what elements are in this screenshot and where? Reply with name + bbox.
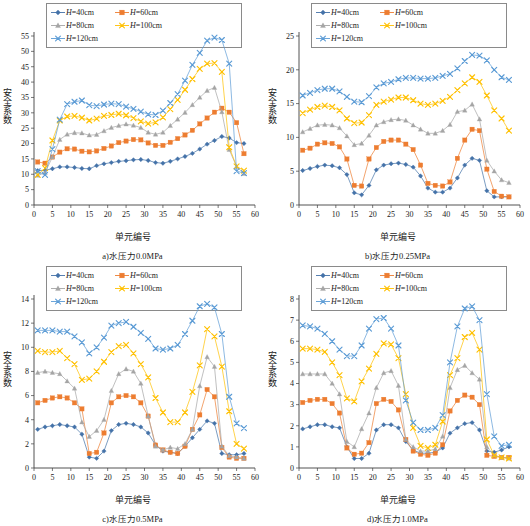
svg-text:45: 45: [21, 63, 29, 72]
svg-text:30: 30: [21, 109, 29, 118]
svg-text:60: 60: [251, 210, 259, 219]
x-ticks-c: 051015202530354045505560: [32, 468, 259, 482]
svg-text:60: 60: [251, 473, 259, 482]
svg-text:25: 25: [286, 32, 294, 41]
svg-text:55: 55: [498, 210, 506, 219]
svg-text:0: 0: [290, 464, 294, 473]
chart-panel-c: H=40cmH=60cmH=80cmH=100cmH=120cm 0246810…: [0, 263, 265, 526]
svg-text:10: 10: [21, 170, 29, 179]
svg-text:30: 30: [141, 210, 149, 219]
series-h80cm: [35, 85, 246, 177]
svg-text:35: 35: [424, 473, 432, 482]
plot-area-b: 0510152025051015202530354045505560: [265, 0, 530, 263]
svg-text:8: 8: [25, 367, 29, 376]
svg-text:5: 5: [315, 210, 319, 219]
svg-text:4: 4: [25, 416, 29, 425]
svg-text:10: 10: [21, 343, 29, 352]
svg-text:45: 45: [461, 210, 469, 219]
svg-text:0: 0: [290, 201, 294, 210]
x-ticks-a: 051015202530354045505560: [32, 205, 259, 219]
series-h100cm: [35, 327, 246, 452]
chart-panel-a: H=40cmH=60cmH=80cmH=100cmH=120cm 0510152…: [0, 0, 265, 263]
svg-text:20: 20: [369, 473, 377, 482]
y-ticks-d: 012345678: [290, 295, 299, 473]
plot-area-c: 02468101214051015202530354045505560: [0, 263, 265, 526]
svg-text:0: 0: [297, 210, 301, 219]
svg-text:12: 12: [21, 319, 29, 328]
svg-text:40: 40: [177, 473, 185, 482]
series-h120cm: [35, 35, 246, 177]
svg-text:5: 5: [50, 210, 54, 219]
chart-svg-b: 0510152025051015202530354045505560: [265, 0, 530, 263]
panel-caption-a: a)水压力0.0MPa: [0, 249, 265, 261]
svg-text:55: 55: [233, 210, 241, 219]
svg-text:55: 55: [498, 473, 506, 482]
series-h80cm: [35, 355, 246, 461]
axes-a: [34, 32, 255, 205]
x-axis-label-c: 单元编号: [0, 493, 265, 506]
svg-text:30: 30: [406, 210, 414, 219]
svg-text:4: 4: [290, 379, 294, 388]
x-axis-label-b: 单元编号: [265, 230, 530, 243]
svg-text:0: 0: [297, 473, 301, 482]
svg-text:0: 0: [25, 201, 29, 210]
svg-text:25: 25: [387, 473, 395, 482]
svg-text:40: 40: [177, 210, 185, 219]
svg-text:40: 40: [21, 78, 29, 87]
svg-text:15: 15: [350, 210, 358, 219]
x-ticks-d: 051015202530354045505560: [297, 468, 524, 482]
y-axis-label-b: 安全系数: [267, 88, 279, 124]
svg-text:30: 30: [406, 473, 414, 482]
svg-text:35: 35: [21, 93, 29, 102]
chart-panel-d: H=40cmH=60cmH=80cmH=100cmH=120cm 0123456…: [265, 263, 530, 526]
svg-text:50: 50: [214, 473, 222, 482]
svg-text:40: 40: [442, 210, 450, 219]
chart-svg-c: 02468101214051015202530354045505560: [0, 263, 265, 526]
figure-root: H=40cmH=60cmH=80cmH=100cmH=120cm 0510152…: [0, 0, 530, 526]
panel-caption-d: d)水压力1.0MPa: [265, 512, 530, 524]
axes-b: [299, 32, 520, 205]
svg-text:3: 3: [290, 400, 294, 409]
svg-text:10: 10: [332, 210, 340, 219]
svg-text:25: 25: [387, 210, 395, 219]
svg-text:0: 0: [25, 464, 29, 473]
svg-text:5: 5: [290, 167, 294, 176]
y-ticks-c: 02468101214: [21, 295, 34, 473]
svg-text:15: 15: [85, 473, 93, 482]
svg-text:15: 15: [350, 473, 358, 482]
svg-text:5: 5: [315, 473, 319, 482]
svg-text:0: 0: [32, 210, 36, 219]
svg-text:20: 20: [21, 139, 29, 148]
x-axis-label-d: 单元编号: [265, 493, 530, 506]
chart-panel-b: H=40cmH=60cmH=80cmH=100cmH=120cm 0510152…: [265, 0, 530, 263]
svg-text:60: 60: [516, 473, 524, 482]
y-ticks-b: 0510152025: [286, 32, 299, 210]
y-ticks-a: 0510152025303540455055: [21, 32, 34, 210]
svg-text:15: 15: [286, 99, 294, 108]
svg-text:7: 7: [290, 316, 294, 325]
svg-text:2: 2: [290, 422, 294, 431]
svg-text:6: 6: [25, 391, 29, 400]
svg-text:40: 40: [442, 473, 450, 482]
svg-text:10: 10: [286, 133, 294, 142]
svg-text:20: 20: [104, 210, 112, 219]
panel-caption-b: b)水压力0.25MPa: [265, 249, 530, 261]
y-axis-label-d: 安全系数: [267, 351, 279, 387]
chart-svg-a: 0510152025303540455055051015202530354045…: [0, 0, 265, 263]
svg-text:55: 55: [233, 473, 241, 482]
svg-text:5: 5: [25, 185, 29, 194]
svg-text:1: 1: [290, 443, 294, 452]
svg-text:20: 20: [286, 66, 294, 75]
svg-text:14: 14: [21, 295, 29, 304]
svg-text:25: 25: [122, 473, 130, 482]
chart-svg-d: 012345678051015202530354045505560: [265, 263, 530, 526]
y-axis-label-c: 安全系数: [2, 351, 14, 387]
svg-text:60: 60: [516, 210, 524, 219]
svg-text:35: 35: [159, 473, 167, 482]
series-h40cm: [35, 419, 246, 461]
svg-text:0: 0: [32, 473, 36, 482]
svg-text:20: 20: [369, 210, 377, 219]
svg-text:50: 50: [21, 47, 29, 56]
x-axis-label-a: 单元编号: [0, 230, 265, 243]
svg-text:50: 50: [214, 210, 222, 219]
